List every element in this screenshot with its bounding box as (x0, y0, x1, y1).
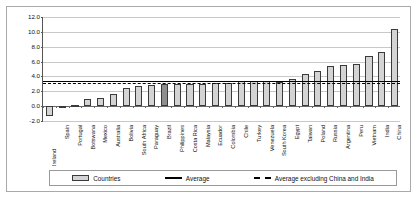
bar-slot (107, 17, 120, 121)
x-axis-category-label: Ireland (51, 149, 57, 166)
x-axis-category-label: Philippines (179, 125, 185, 152)
x-axis-category-label: Portugal (77, 125, 83, 146)
bar[interactable] (161, 84, 168, 106)
x-axis-tick-mark (171, 106, 172, 108)
x-axis-tick-mark (56, 106, 57, 108)
legend-label-average: Average (186, 175, 210, 182)
x-axis-tick-mark (43, 106, 44, 108)
bar[interactable] (353, 64, 360, 106)
bar[interactable] (199, 84, 206, 106)
y-axis-tick-label: 4.0 (31, 73, 40, 79)
x-axis-tick-mark (350, 106, 351, 108)
bar[interactable] (110, 94, 117, 106)
plot-area: 12.010.08.06.04.02.00.0-2.0 (42, 17, 400, 121)
x-axis-tick-mark (69, 106, 70, 108)
x-axis-tick-mark (324, 106, 325, 108)
x-axis-category-label: Egypt (294, 125, 300, 139)
bar-slot (235, 17, 248, 121)
x-axis-tick-mark (222, 106, 223, 108)
x-axis-category-label: Argentina (345, 125, 351, 149)
x-axis-tick-mark (81, 106, 82, 108)
x-axis-tick-mark (209, 106, 210, 108)
bar-slot (133, 17, 146, 121)
x-axis-category-label: Malaysia (205, 125, 211, 147)
x-axis-tick-mark (158, 106, 159, 108)
x-axis-category-label: Costa Rica (192, 125, 198, 152)
bar-slot (171, 17, 184, 121)
x-axis-tick-mark (235, 106, 236, 108)
bar-slot (158, 17, 171, 121)
chart-legend: Countries Average Average excluding Chin… (49, 170, 397, 186)
x-axis-category-label: South Africa (141, 125, 147, 155)
bar[interactable] (276, 82, 283, 106)
x-axis-category-label: South Korea (281, 125, 287, 156)
bar[interactable] (135, 86, 142, 106)
x-axis-tick-mark (196, 106, 197, 108)
x-axis-tick-mark (286, 106, 287, 108)
bar-slot (209, 17, 222, 121)
x-axis-category-label: Spain (64, 125, 70, 139)
bar[interactable] (225, 83, 232, 106)
x-axis-tick-mark (94, 106, 95, 108)
bar-slot (260, 17, 273, 121)
gridline (43, 121, 400, 122)
bar[interactable] (186, 84, 193, 106)
dashed-line-swatch-icon (254, 177, 271, 179)
bar-slot (312, 17, 325, 121)
x-axis-tick-mark (299, 106, 300, 108)
bar-slot (350, 17, 363, 121)
bar[interactable] (71, 105, 78, 107)
x-axis-tick-mark (145, 106, 146, 108)
x-axis-tick-mark (363, 106, 364, 108)
bar[interactable] (238, 81, 245, 106)
x-axis-tick-mark (184, 106, 185, 108)
solid-line-swatch-icon (165, 177, 182, 179)
bar-slot (337, 17, 350, 121)
bar-slot (43, 17, 56, 121)
bar[interactable] (148, 85, 155, 107)
bar[interactable] (327, 66, 334, 106)
x-axis-tick-mark (273, 106, 274, 108)
x-axis-tick-mark (260, 106, 261, 108)
bar[interactable] (250, 81, 257, 106)
y-axis-tick-label: 10.0 (28, 29, 40, 35)
bar[interactable] (46, 106, 53, 116)
bar[interactable] (212, 83, 219, 106)
bar[interactable] (123, 88, 130, 106)
bar-slot (196, 17, 209, 121)
legend-item-countries: Countries (72, 175, 120, 182)
bar-slot (145, 17, 158, 121)
x-axis-category-label: Turkey (256, 125, 262, 142)
x-axis-category-label: Taiwan (307, 125, 313, 142)
x-axis-tick-mark (248, 106, 249, 108)
bar-swatch-icon (72, 175, 89, 181)
bar-slot (388, 17, 401, 121)
bar[interactable] (263, 81, 270, 106)
bar[interactable] (340, 65, 347, 107)
bar-slot (324, 17, 337, 121)
bar-slot (286, 17, 299, 121)
bar[interactable] (314, 71, 321, 106)
x-axis-category-label: India (384, 125, 390, 137)
x-axis-category-label: Ecuador (217, 125, 223, 146)
y-axis-tick-mark (41, 121, 43, 122)
x-axis-category-label: Poland (320, 125, 326, 142)
x-axis-category-label: Bolivia (128, 125, 134, 141)
x-axis-category-label: Botswana (90, 125, 96, 150)
y-axis-tick-label: 6.0 (31, 58, 40, 64)
bar-slot (94, 17, 107, 121)
bar[interactable] (84, 99, 91, 106)
bar[interactable] (302, 74, 309, 106)
y-axis-tick-label: 0.0 (31, 103, 40, 109)
bar-slot (248, 17, 261, 121)
x-axis-tick-mark (337, 106, 338, 108)
x-axis-category-label: Vietnam (371, 125, 377, 145)
bar[interactable] (97, 98, 104, 106)
bar[interactable] (174, 84, 181, 106)
bar[interactable] (59, 106, 66, 108)
x-axis-category-label: Paraguay (153, 125, 159, 149)
bar-slot (81, 17, 94, 121)
bar[interactable] (378, 52, 385, 106)
bar[interactable] (391, 29, 398, 106)
x-axis-category-label: Venezuela (269, 125, 275, 151)
